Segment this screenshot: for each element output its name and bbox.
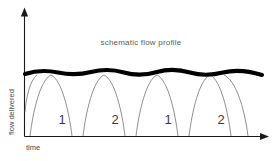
- schematic-flow-profile-figure: schematic flow profile flow delivered ti…: [0, 0, 275, 161]
- pulse-label-1b: 1: [164, 112, 171, 127]
- pulse-label-2a: 2: [111, 112, 118, 127]
- pulse-label-2b: 2: [217, 112, 224, 127]
- x-axis-arrow-icon: [260, 133, 269, 140]
- y-axis-label: flow delivered: [7, 89, 16, 135]
- pulse-curve-trailing-edge: [224, 75, 248, 136]
- pulse-curve-1a: [30, 75, 72, 136]
- flow-envelope-curve: [25, 70, 262, 75]
- x-axis-label: time: [26, 143, 40, 152]
- pulse-curve-2a: [83, 75, 125, 136]
- flow-profile-chart: schematic flow profile flow delivered ti…: [0, 0, 275, 161]
- pulse-label-1a: 1: [58, 112, 65, 127]
- x-axis: [25, 133, 270, 140]
- chart-title: schematic flow profile: [101, 38, 182, 47]
- pulse-curve-2b: [189, 75, 231, 136]
- y-axis-arrow-icon: [21, 8, 28, 17]
- pulse-curve-1b: [136, 75, 178, 136]
